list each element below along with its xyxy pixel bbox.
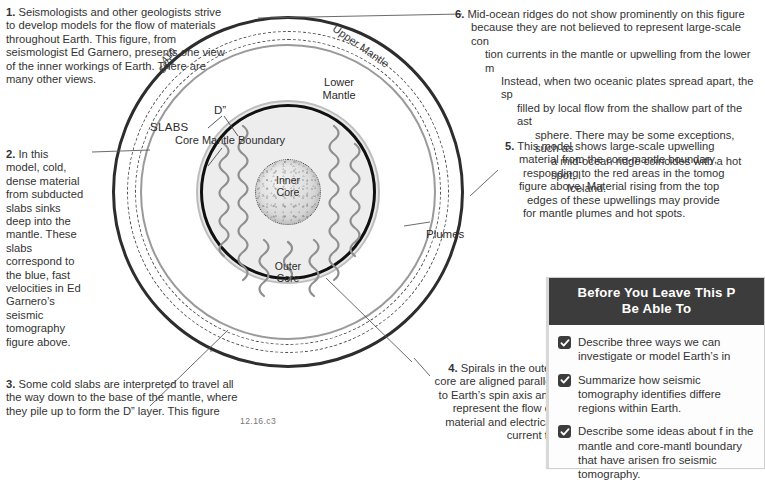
callout-note-6-line-2: because they are not believed to represe… xyxy=(455,21,755,48)
callout-note-3: 3. Some cold slabs are interpreted to tr… xyxy=(6,378,246,418)
callout-note-6-line-8: Iceland. xyxy=(455,182,755,195)
objective-item-text: Summarize how seismic tomography identif… xyxy=(578,373,756,416)
callout-note-1: 1. Seismologists and other geologists st… xyxy=(6,6,228,86)
callout-note-4-number: 4. xyxy=(448,362,457,374)
label-plumes: Plumes xyxy=(426,228,464,240)
callout-note-6-line-7: a mid-ocean ridge coincides with a hot s… xyxy=(455,155,755,182)
objectives-header-line2: Be Able To xyxy=(622,301,691,316)
objective-item-text: Describe three ways we can investigate o… xyxy=(578,335,756,364)
callout-note-3-text: Some cold slabs are interpreted to trave… xyxy=(6,378,237,417)
callout-note-6: 6. Mid-ocean ridges do not show prominen… xyxy=(455,8,755,196)
callout-note-5-line-6: for mantle plumes and hot spots. xyxy=(505,207,755,220)
objectives-box-header: Before You Leave This P Be Able To xyxy=(549,278,764,325)
callout-note-2-number: 2. xyxy=(6,148,15,160)
objective-item-text: Describe some ideas about f in the mantl… xyxy=(578,424,756,481)
before-you-leave-this-page-box: Before You Leave This P Be Able To Descr… xyxy=(546,277,765,469)
callout-note-4: 4. Spirals in the outer core are aligned… xyxy=(432,362,554,442)
check-icon[interactable] xyxy=(558,425,571,438)
objectives-list: Describe three ways we can investigate o… xyxy=(549,325,764,484)
callout-note-6-line-5: filled by local flow from the shallow pa… xyxy=(455,102,755,129)
objectives-header-line1: Before You Leave This P xyxy=(577,285,735,300)
callout-note-2-text: In this model, cold, dense material from… xyxy=(6,148,83,348)
objective-item[interactable]: Summarize how seismic tomography identif… xyxy=(558,373,756,416)
label-d-double-prime: D” xyxy=(214,104,226,116)
check-icon[interactable] xyxy=(558,336,571,349)
objective-item[interactable]: Describe some ideas about f in the mantl… xyxy=(558,424,756,481)
label-lower-mantle-line1: Lower xyxy=(324,76,354,88)
label-outer-core-line2: Core xyxy=(277,272,300,284)
label-inner-core: Inner Core xyxy=(255,174,321,198)
callout-note-6-line-1: Mid-ocean ridges do not show prominently… xyxy=(467,8,744,20)
objective-item[interactable]: Describe three ways we can investigate o… xyxy=(558,335,756,364)
label-lower-mantle-line2: Mantle xyxy=(322,89,355,101)
label-inner-core-line2: Core xyxy=(277,186,300,198)
callout-note-2: 2. In this model, cold, dense material f… xyxy=(6,148,84,349)
callout-note-3-number: 3. xyxy=(6,378,15,390)
check-icon[interactable] xyxy=(558,374,571,387)
label-outer-core-line1: Outer xyxy=(275,260,301,272)
label-outer-core: Outer Core xyxy=(247,260,329,284)
label-slabs: SLABS xyxy=(150,121,189,133)
callout-note-1-number: 1. xyxy=(6,6,15,18)
label-core-mantle-boundary: Core Mantle Boundary xyxy=(175,134,285,146)
callout-note-6-line-3: tion currents in the mantle or upwelling… xyxy=(455,48,755,75)
callout-note-6-line-6: sphere. There may be some exceptions, su… xyxy=(455,129,755,156)
callout-note-1-text: Seismologists and other geologists striv… xyxy=(6,6,225,85)
callout-note-6-line-4: Instead, when two oceanic plates spread … xyxy=(455,75,755,102)
callout-note-6-number: 6. xyxy=(455,8,464,20)
label-lower-mantle: Lower Mantle xyxy=(308,76,370,102)
label-inner-core-line1: Inner xyxy=(276,174,300,186)
